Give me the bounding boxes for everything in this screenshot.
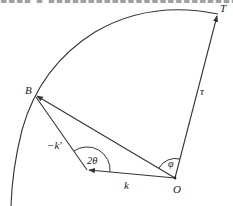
label-O: O: [173, 183, 181, 195]
vector-k: [89, 170, 175, 178]
label-tau: τ: [200, 85, 205, 97]
label-k: k: [124, 179, 130, 191]
label-B: B: [25, 84, 32, 96]
label-phi: φ: [168, 158, 174, 169]
label-two-theta: 2θ: [87, 155, 97, 166]
geometry-figure: T B O τ k −k′ φ 2θ: [0, 0, 233, 206]
vector-OB: [37, 96, 175, 178]
diagram-canvas: ▪▪▪▪ ▪ ▪▪▪▪▪▪▪▪▪▪▪▪▪▪▪▪▪▪▪▪▪▪▪▪▪▪▪▪▪▪▪▪ …: [0, 0, 233, 206]
clipped-caption-text: ▪▪▪▪ ▪ ▪▪▪▪▪▪▪▪▪▪▪▪▪▪▪▪▪▪▪▪▪▪▪▪▪▪▪▪▪▪▪▪: [0, 0, 233, 5]
vector-neg-k-prime: [36, 97, 87, 170]
origin-point: [174, 177, 177, 180]
circle-arc: [11, 10, 218, 206]
label-neg-k-prime: −k′: [47, 139, 62, 151]
vector-tau: [175, 16, 217, 178]
